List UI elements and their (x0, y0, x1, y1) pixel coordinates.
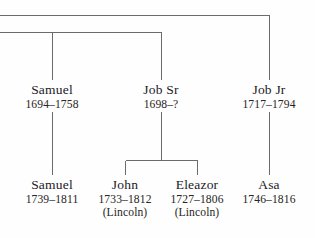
person-node-asa-1746: Asa 1746–1816 (242, 177, 295, 206)
person-dates: 1739–1811 (26, 193, 79, 206)
person-dates: 1746–1816 (242, 193, 295, 206)
person-name: Eleazor (170, 177, 223, 192)
person-node-job-jr: Job Jr 1717–1794 (242, 82, 295, 111)
person-name: Asa (242, 177, 295, 192)
person-node-eleazor-1727: Eleazor 1727–1806 (Lincoln) (170, 177, 223, 219)
person-note: (Lincoln) (170, 206, 223, 219)
connector-lower-rail-to-job-sr (0, 33, 162, 81)
person-name: John (98, 177, 151, 192)
connector-upper-rail-to-job-jr (0, 16, 270, 81)
person-dates: 1694–1758 (25, 98, 78, 111)
person-note: (Lincoln) (98, 206, 151, 219)
person-name: Samuel (26, 177, 79, 192)
person-dates: 1698–? (143, 98, 178, 111)
person-name: Samuel (25, 82, 78, 97)
person-dates: 1733–1812 (98, 193, 151, 206)
person-name: Job Sr (143, 82, 178, 97)
person-node-samuel-1739: Samuel 1739–1811 (26, 177, 79, 206)
person-dates: 1717–1794 (242, 98, 295, 111)
person-dates: 1727–1806 (170, 193, 223, 206)
person-node-job-sr: Job Sr 1698–? (143, 82, 178, 111)
person-name: Job Jr (242, 82, 295, 97)
person-node-john-1733: John 1733–1812 (Lincoln) (98, 177, 151, 219)
person-node-samuel-1694: Samuel 1694–1758 (25, 82, 78, 111)
family-tree-diagram: Samuel 1694–1758 Job Sr 1698–? Job Jr 17… (0, 0, 315, 238)
